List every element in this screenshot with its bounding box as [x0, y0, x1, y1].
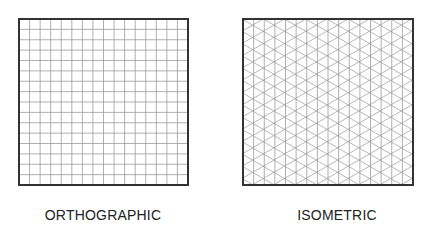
isometric-grid	[242, 18, 414, 186]
orthographic-grid	[18, 18, 189, 186]
orthographic-label: ORTHOGRAPHIC	[13, 207, 193, 223]
orthographic-grid-panel	[18, 18, 189, 186]
isometric-grid-panel	[242, 18, 414, 186]
isometric-label: ISOMETRIC	[247, 207, 427, 223]
